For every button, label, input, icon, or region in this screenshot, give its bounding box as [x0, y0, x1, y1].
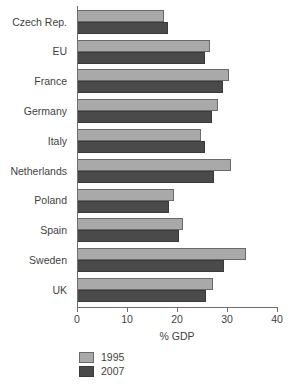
category-label: France: [0, 67, 72, 97]
bar-2007: [78, 52, 205, 64]
category-label: Germany: [0, 96, 72, 126]
legend-item: 1995: [79, 352, 124, 363]
x-axis-tick: [127, 307, 128, 312]
bar-1995: [78, 99, 218, 111]
x-axis-tick-label: 30: [221, 314, 233, 325]
legend-swatch-icon: [79, 352, 94, 363]
bar-2007: [78, 290, 206, 302]
x-axis-tick-label: 40: [271, 314, 283, 325]
bar-1995: [78, 10, 164, 22]
bar-group: [78, 126, 288, 156]
bar-2007: [78, 81, 223, 93]
bar-group: [78, 245, 288, 275]
bar-1995: [78, 189, 174, 201]
category-axis-labels: Czech Rep.EUFranceGermanyItalyNetherland…: [0, 7, 72, 305]
bar-group: [78, 96, 288, 126]
x-axis-tick-label: 20: [171, 314, 183, 325]
bar-1995: [78, 129, 201, 141]
bar-group: [78, 216, 288, 246]
x-axis-tick: [77, 307, 78, 312]
legend-swatch-icon: [79, 366, 94, 377]
bar-group: [78, 37, 288, 67]
bar-group: [78, 186, 288, 216]
category-label: Poland: [0, 186, 72, 216]
legend-item: 2007: [79, 366, 124, 377]
bar-2007: [78, 141, 205, 153]
bar-group: [78, 275, 288, 305]
category-label: Italy: [0, 126, 72, 156]
category-label: UK: [0, 275, 72, 305]
bar-2007: [78, 260, 224, 272]
bar-2007: [78, 230, 179, 242]
x-axis-tick: [227, 307, 228, 312]
x-axis-tick-label: 0: [74, 314, 80, 325]
bar-1995: [78, 159, 231, 171]
legend-label: 1995: [101, 352, 124, 363]
bars-container: [78, 7, 288, 305]
bar-chart: Czech Rep.EUFranceGermanyItalyNetherland…: [0, 0, 296, 389]
bar-2007: [78, 201, 169, 213]
x-axis-tick-labels: 010203040: [0, 314, 296, 328]
bar-2007: [78, 22, 168, 34]
bar-1995: [78, 40, 210, 52]
bar-group: [78, 67, 288, 97]
legend-label: 2007: [101, 366, 124, 377]
category-label: EU: [0, 37, 72, 67]
chart-legend: 19952007: [79, 352, 124, 377]
category-label: Sweden: [0, 245, 72, 275]
bar-group: [78, 156, 288, 186]
bar-1995: [78, 278, 213, 290]
bar-2007: [78, 171, 214, 183]
bar-2007: [78, 111, 212, 123]
x-axis-tick: [277, 307, 278, 312]
category-label: Czech Rep.: [0, 7, 72, 37]
bar-1995: [78, 248, 246, 260]
category-label: Spain: [0, 216, 72, 246]
category-label: Netherlands: [0, 156, 72, 186]
bar-1995: [78, 218, 183, 230]
bar-1995: [78, 69, 229, 81]
x-axis-tick-label: 10: [121, 314, 133, 325]
x-axis-title: % GDP: [77, 330, 277, 342]
bar-group: [78, 7, 288, 37]
plot-area: Czech Rep.EUFranceGermanyItalyNetherland…: [0, 0, 296, 312]
x-axis-tick: [177, 307, 178, 312]
